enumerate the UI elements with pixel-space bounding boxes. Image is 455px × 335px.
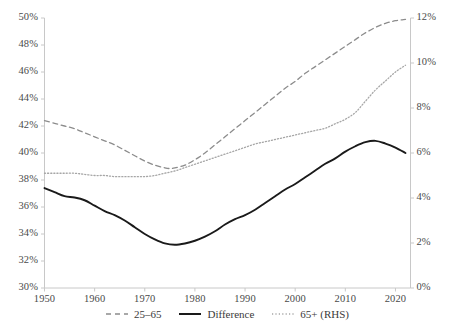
chart-legend: 25–65 Difference 65+ (RHS) [0, 308, 455, 320]
chart-container: 25–65 Difference 65+ (RHS) 30%32%34%36%3… [0, 0, 455, 335]
x-axis-tick-label: 1970 [123, 293, 167, 304]
y-axis-left-tick-label: 50% [0, 11, 38, 22]
series-line-2 [45, 65, 406, 176]
legend-item-difference[interactable]: Difference [179, 308, 254, 320]
y-axis-right-tick-label: 10% [417, 56, 455, 67]
legend-label-difference: Difference [207, 308, 254, 320]
x-axis-tick-label: 2020 [373, 293, 417, 304]
x-axis-tick-label: 1950 [23, 293, 67, 304]
legend-swatch-dotted-icon [272, 309, 294, 319]
y-axis-right-tick-label: 0% [417, 281, 455, 292]
x-axis-tick-label: 1990 [223, 293, 267, 304]
y-axis-left-tick-label: 44% [0, 92, 38, 103]
legend-label-65-plus: 65+ (RHS) [300, 308, 349, 320]
y-axis-left-tick-label: 42% [0, 119, 38, 130]
series-line-1 [45, 141, 406, 245]
legend-item-65-plus[interactable]: 65+ (RHS) [272, 308, 349, 320]
y-axis-left-tick-label: 46% [0, 65, 38, 76]
y-axis-right-tick-label: 4% [417, 191, 455, 202]
legend-swatch-solid-icon [179, 309, 201, 319]
y-axis-right-tick-label: 12% [417, 11, 455, 22]
y-axis-right-tick-label: 8% [417, 101, 455, 112]
y-axis-left-tick-label: 38% [0, 173, 38, 184]
legend-swatch-dashed-icon [106, 309, 128, 319]
y-axis-left-tick-label: 34% [0, 227, 38, 238]
y-axis-right-tick-label: 6% [417, 146, 455, 157]
x-axis-tick-label: 1980 [173, 293, 217, 304]
y-axis-left-tick-label: 30% [0, 281, 38, 292]
y-axis-right-tick-label: 2% [417, 236, 455, 247]
x-axis-tick-label: 1960 [73, 293, 117, 304]
chart-plot-svg [0, 0, 455, 335]
x-axis-tick-label: 2010 [323, 293, 367, 304]
y-axis-left-tick-label: 36% [0, 200, 38, 211]
y-axis-left-tick-label: 32% [0, 254, 38, 265]
y-axis-left-tick-label: 48% [0, 38, 38, 49]
x-axis-tick-label: 2000 [273, 293, 317, 304]
legend-label-25-65: 25–65 [134, 308, 162, 320]
legend-item-25-65[interactable]: 25–65 [106, 308, 162, 320]
y-axis-left-tick-label: 40% [0, 146, 38, 157]
series-line-0 [45, 19, 406, 168]
